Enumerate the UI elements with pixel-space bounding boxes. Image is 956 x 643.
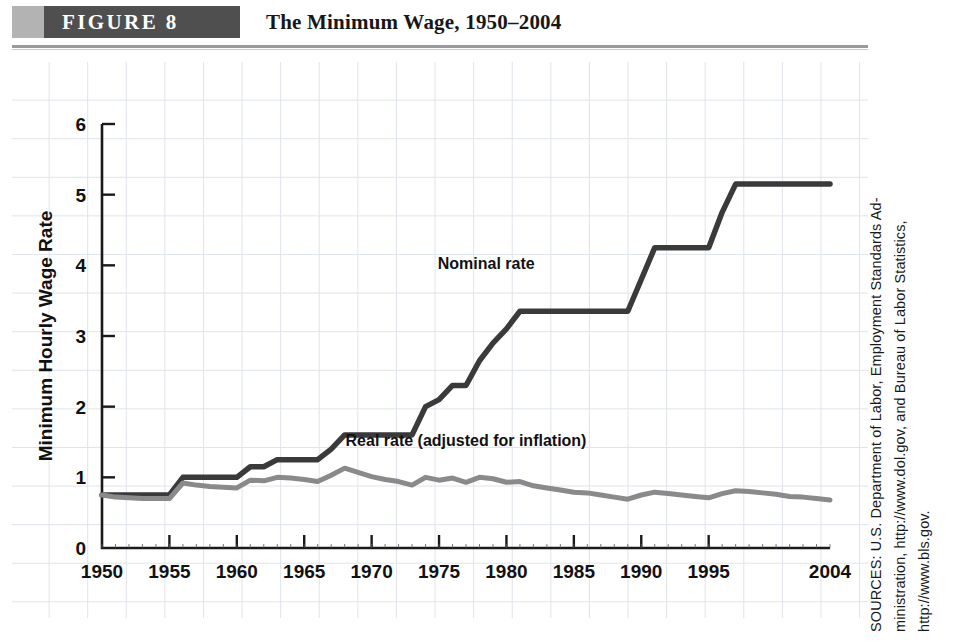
figure-container: FIGURE 8 The Minimum Wage, 1950–2004 012… [0, 0, 956, 643]
x-axis-tick-label: 1995 [688, 561, 731, 582]
series-group [102, 184, 830, 500]
x-axis-tick-label: 1990 [620, 561, 662, 582]
source-line: http://www.bls.gov. [916, 510, 932, 632]
source-line: ministration, http://www.dol.gov, and Bu… [892, 220, 908, 632]
chart-area: 0123456195019551960196519701975198019851… [0, 0, 956, 643]
x-axis-tick-label: 1960 [216, 561, 258, 582]
x-axis-tick-label: 1985 [553, 561, 596, 582]
real-rate-line [102, 468, 830, 500]
y-axis-tick-label: 4 [75, 255, 86, 276]
x-axis-tick-label: 1970 [350, 561, 392, 582]
y-axis-title: Minimum Hourly Wage Rate [35, 211, 56, 462]
y-axis-tick-label: 3 [75, 326, 86, 347]
nominal-rate-annotation: Nominal rate [438, 255, 535, 272]
source-line: SOURCES: U.S. Department of Labor, Emplo… [868, 197, 884, 632]
y-axis-tick-label: 6 [75, 114, 86, 135]
x-axis-tick-label: 2004 [809, 561, 852, 582]
x-axis-tick-label: 1980 [485, 561, 527, 582]
line-chart-svg: 0123456195019551960196519701975198019851… [0, 0, 956, 643]
annotations-group: Nominal rateReal rate (adjusted for infl… [346, 255, 587, 449]
x-axis-tick-label: 1975 [418, 561, 461, 582]
y-axis-title-group: Minimum Hourly Wage Rate [35, 211, 56, 462]
y-axis-tick-label: 5 [75, 185, 86, 206]
x-axis-tick-label: 1955 [148, 561, 191, 582]
real-rate-annotation: Real rate (adjusted for inflation) [346, 432, 587, 449]
source-note: SOURCES: U.S. Department of Labor, Emplo… [868, 62, 954, 632]
y-axis-tick-label: 2 [75, 397, 86, 418]
x-axis-tick-label: 1950 [81, 561, 123, 582]
y-axis-tick-label: 0 [75, 538, 86, 559]
x-axis-tick-label: 1965 [283, 561, 326, 582]
y-axis-tick-label: 1 [75, 467, 86, 488]
